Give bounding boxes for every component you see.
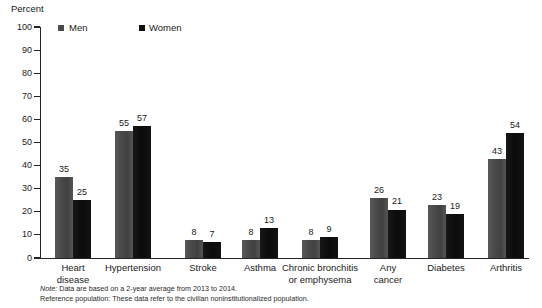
y-axis-tick-label: 80 <box>8 69 32 78</box>
bar-women <box>73 200 91 258</box>
y-axis-tick-label: 30 <box>8 184 32 193</box>
bar-value-label: 54 <box>502 121 528 130</box>
footnote-reference: Reference population: These data refer t… <box>40 294 510 304</box>
bar-men <box>428 205 447 258</box>
bar-value-label: 7 <box>199 230 225 239</box>
bar-women <box>260 228 278 258</box>
bar-men <box>185 240 204 258</box>
y-axis-tick-label: 40 <box>8 161 32 170</box>
chart-footnotes: Note: Data are based on a 2-year average… <box>40 284 510 303</box>
bar-value-label: 9 <box>316 225 342 234</box>
chart-legend: Men Women <box>0 0 542 30</box>
bar-women <box>506 133 524 258</box>
y-axis-tick-label: 90 <box>8 46 32 55</box>
bar-women <box>133 126 151 258</box>
bar-value-label: 26 <box>366 186 392 195</box>
bar-men <box>302 240 321 258</box>
y-axis-tick-label: 10 <box>8 230 32 239</box>
bar-value-label: 25 <box>69 188 95 197</box>
bar-men <box>370 198 389 258</box>
footnote-note: Note: Data are based on a 2-year average… <box>40 284 510 294</box>
bar-men <box>242 240 261 258</box>
bar-value-label: 19 <box>442 202 468 211</box>
bar-value-label: 23 <box>424 193 450 202</box>
y-axis-tick-label: 50 <box>8 138 32 147</box>
bar-men <box>115 131 134 258</box>
x-axis-label: Arthritis <box>451 262 542 274</box>
bar-women <box>446 214 464 258</box>
y-axis-tick-label: 100 <box>8 23 32 32</box>
bar-men <box>488 159 507 258</box>
bar-value-label: 13 <box>256 216 282 225</box>
bar-chart: Percent Men Women 1009080706050403020100… <box>0 0 542 308</box>
x-axis-line <box>40 258 529 259</box>
y-axis-tick-label: 70 <box>8 92 32 101</box>
bar-women <box>320 237 338 258</box>
footnote-note-text: Data are based on a 2-year average from … <box>57 284 237 293</box>
footnote-note-prefix: Note: <box>40 284 57 293</box>
bar-value-label: 21 <box>384 197 410 206</box>
plot-area: 352555578781389262123194354 <box>40 27 529 258</box>
y-axis-tick-label: 20 <box>8 207 32 216</box>
bar-women <box>203 242 221 258</box>
bar-value-label: 35 <box>51 165 77 174</box>
y-axis-tick-label: 60 <box>8 115 32 124</box>
bar-value-label: 57 <box>129 114 155 123</box>
bar-women <box>388 210 406 259</box>
